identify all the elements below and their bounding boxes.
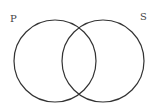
set-p-circle <box>14 20 96 102</box>
set-p-label: P <box>10 13 17 24</box>
venn-diagram: P S <box>0 0 154 107</box>
set-s-label: S <box>140 11 147 22</box>
set-s-circle <box>62 20 144 102</box>
